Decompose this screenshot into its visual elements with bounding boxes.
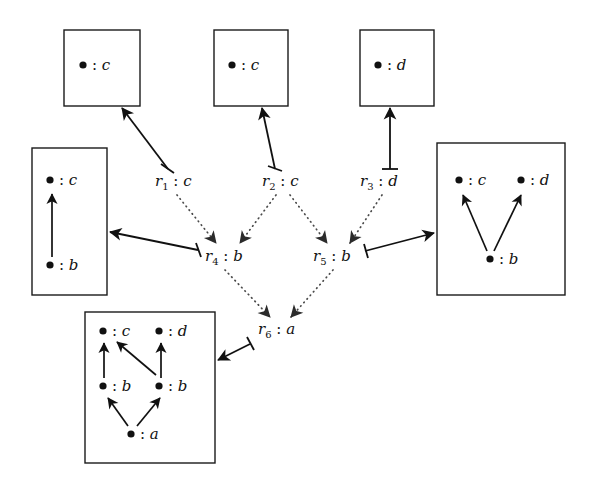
svg-text:r1 : c: r1 : c (155, 172, 192, 192)
edge-r2-to-box-top-middle[interactable] (262, 108, 282, 171)
rule-label-r2[interactable]: r2 : c (262, 172, 299, 192)
inner-arrow-bt-a-to-bt-b2 (137, 398, 160, 426)
graph-object-box-top-left[interactable]: : c (64, 30, 140, 106)
svg-text:r4 : b: r4 : b (205, 247, 243, 267)
diagram-canvas: : c : c : d : c : b (0, 0, 594, 486)
vertex-dot (127, 430, 134, 437)
vertex-dot (46, 261, 53, 268)
rule-label-r1[interactable]: r1 : c (155, 172, 192, 192)
edge-r2-r4[interactable] (240, 195, 276, 243)
edge-r5-to-box-right[interactable] (364, 233, 434, 258)
edge-r6-to-box-bottom[interactable] (218, 337, 254, 360)
graph-object-box-left[interactable]: : c : b (32, 148, 107, 295)
diagram-svg: : c : c : d : c : b (0, 0, 594, 486)
vertex-dot (46, 176, 53, 183)
vertex-label-bt-c: : c (112, 322, 131, 340)
edge-r1-r4[interactable] (177, 195, 216, 243)
edge-r3-to-box-top-right[interactable] (382, 108, 398, 169)
rule-label-r4[interactable]: r4 : b (205, 247, 243, 267)
vertex-dot (99, 327, 106, 334)
vertex-label-l-c: : c (59, 171, 78, 189)
inner-arrow-r-b-to-r-d (494, 195, 521, 251)
vertex-dot (374, 61, 381, 68)
edge-r4-r6[interactable] (225, 270, 270, 317)
vertex-dot (79, 61, 86, 68)
vertex-label-tm-c: : c (241, 56, 260, 74)
svg-text:r2 : c: r2 : c (262, 172, 299, 192)
svg-text:r3 : d: r3 : d (360, 172, 398, 192)
vertex-label-r-d: : d (530, 171, 549, 189)
edge-r4-to-box-left[interactable] (110, 232, 201, 257)
vertex-label-bt-b1: : b (112, 377, 131, 395)
vertex-label-tr-d: : d (387, 56, 406, 74)
rule-label-r3[interactable]: r3 : d (360, 172, 398, 192)
graph-object-box-top-right[interactable]: : d (360, 30, 434, 106)
vertex-dot (455, 176, 462, 183)
edge-r3-r5[interactable] (350, 195, 382, 243)
vertex-dot (517, 176, 524, 183)
vertex-dot (99, 382, 106, 389)
edge-r5-r6[interactable] (291, 270, 333, 317)
vertex-label-r-b: : b (499, 250, 518, 268)
vertex-label-r-c: : c (468, 171, 487, 189)
graph-object-box-right[interactable]: : c : d : b (437, 143, 565, 295)
vertex-label-tl-c: : c (92, 56, 111, 74)
inner-arrow-bt-b2-to-bt-c (117, 342, 156, 375)
vertex-label-bt-a: : a (140, 425, 159, 443)
rule-label-r6[interactable]: r6 : a (258, 320, 295, 340)
vertex-dot (155, 382, 162, 389)
rule-label-r5[interactable]: r5 : b (313, 247, 351, 267)
vertex-label-l-b: : b (59, 256, 78, 274)
inner-arrow-r-b-to-r-c (463, 195, 487, 251)
vertex-dot (228, 61, 235, 68)
inner-arrow-bt-a-to-bt-b1 (108, 398, 128, 426)
graph-object-box-bottom[interactable]: : c : d : b : b : a (85, 312, 215, 463)
graph-object-box-top-middle[interactable]: : c (214, 30, 288, 106)
edge-r1-to-box-top-left[interactable] (122, 108, 174, 173)
vertex-dot (155, 327, 162, 334)
svg-text:r6 : a: r6 : a (258, 320, 295, 340)
vertex-label-bt-d: : d (168, 322, 187, 340)
edge-r2-r5[interactable] (290, 195, 327, 243)
vertex-dot (486, 255, 493, 262)
vertex-label-bt-b2: : b (168, 377, 187, 395)
svg-text:r5 : b: r5 : b (313, 247, 351, 267)
